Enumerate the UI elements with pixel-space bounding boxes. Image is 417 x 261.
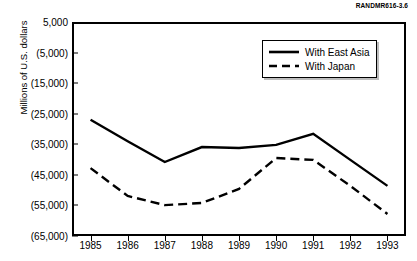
y-tick-mark <box>72 144 78 145</box>
y-tick-label: (25,000) <box>0 108 68 119</box>
series-line-with-east-asia <box>91 120 388 186</box>
y-tick-label: (45,000) <box>0 169 68 180</box>
x-tick-mark <box>165 236 166 241</box>
x-tick-label: 1993 <box>364 240 410 251</box>
y-tick-mark <box>72 83 78 84</box>
x-tick-mark <box>239 236 240 241</box>
legend-swatch-dashed-line-icon <box>269 60 299 72</box>
legend-label: With Japan <box>305 61 355 72</box>
legend-swatch-solid-line-icon <box>269 46 299 58</box>
y-tick-label: (15,000) <box>0 78 68 89</box>
x-tick-mark <box>350 236 351 241</box>
y-tick-label: (35,000) <box>0 139 68 150</box>
x-tick-mark <box>313 236 314 241</box>
y-tick-mark <box>72 205 78 206</box>
x-tick-mark <box>276 236 277 241</box>
legend-item: With East Asia <box>269 45 369 59</box>
series-line-with-japan <box>91 158 388 214</box>
y-tick-label: 5,000 <box>0 17 68 28</box>
y-tick-label: (5,000) <box>0 47 68 58</box>
source-identifier: RANDMR616-3.6 <box>356 2 408 9</box>
legend-label: With East Asia <box>305 47 369 58</box>
x-tick-mark <box>387 236 388 241</box>
chart-figure: RANDMR616-3.6 Millions of U.S. dollars W… <box>0 0 417 261</box>
legend-item: With Japan <box>269 59 369 73</box>
x-tick-mark <box>91 236 92 241</box>
x-tick-mark <box>202 236 203 241</box>
y-tick-mark <box>72 236 78 237</box>
y-tick-label: (55,000) <box>0 200 68 211</box>
y-tick-mark <box>72 174 78 175</box>
y-tick-label: (65,000) <box>0 231 68 242</box>
y-tick-mark <box>72 113 78 114</box>
chart-legend: With East AsiaWith Japan <box>262 40 377 78</box>
y-tick-mark <box>72 52 78 53</box>
x-tick-mark <box>128 236 129 241</box>
